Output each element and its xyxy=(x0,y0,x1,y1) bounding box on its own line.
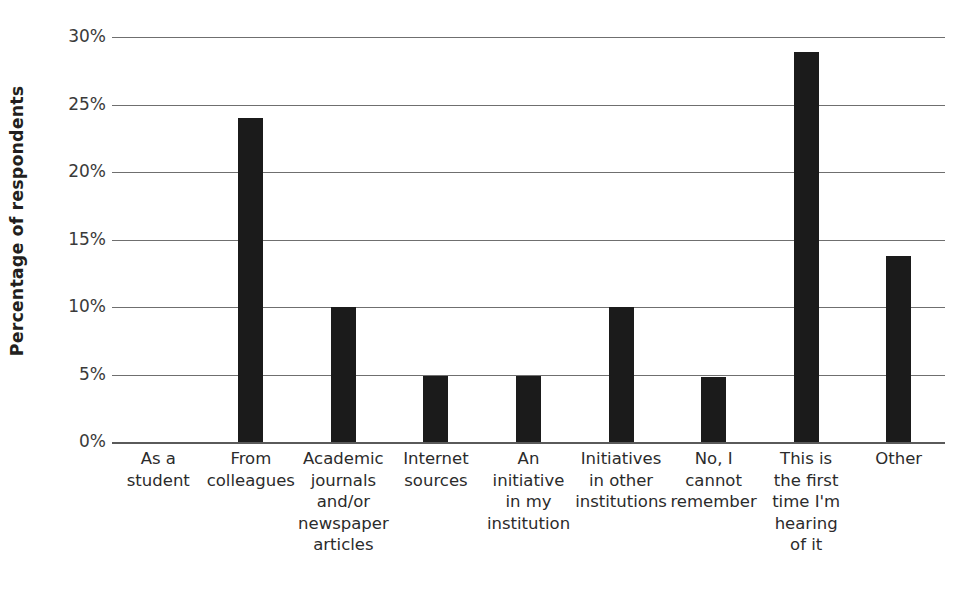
x-axis-label-line: institution xyxy=(482,513,575,535)
x-axis-label-line: No, I xyxy=(667,448,760,470)
x-axis-label-line: newspaper xyxy=(297,513,390,535)
x-axis-label-line: sources xyxy=(390,470,483,492)
y-axis-tick-label: 5% xyxy=(42,366,106,383)
y-axis-tick-label: 10% xyxy=(42,298,106,315)
x-axis-label-line: Academic xyxy=(297,448,390,470)
x-axis-tick-label: Other xyxy=(852,448,945,470)
x-axis-tick-labels: As astudentFromcolleaguesAcademicjournal… xyxy=(112,448,945,588)
x-axis-label-line: From xyxy=(205,448,298,470)
y-axis-tick-labels: 30%25%20%15%10%5%0% xyxy=(40,0,106,594)
x-axis-tick-label: As astudent xyxy=(112,448,205,491)
x-axis-label-line: cannot xyxy=(667,470,760,492)
x-axis-label-line: As a xyxy=(112,448,205,470)
x-axis-label-line: This is xyxy=(760,448,853,470)
x-axis-tick-label: Aninitiativein myinstitution xyxy=(482,448,575,534)
x-axis-tick-label: Initiativesin otherinstitutions xyxy=(575,448,668,513)
x-axis-label-line: colleagues xyxy=(205,470,298,492)
y-axis-tick-label: 30% xyxy=(42,28,106,45)
x-axis-label-line: Other xyxy=(852,448,945,470)
bar[interactable] xyxy=(886,256,911,442)
bar[interactable] xyxy=(238,118,263,442)
x-axis-label-line: journals xyxy=(297,470,390,492)
x-axis-tick-label: Academicjournalsand/ornewspaperarticles xyxy=(297,448,390,556)
x-axis-label-line: of it xyxy=(760,534,853,556)
x-axis-label-line: in other xyxy=(575,470,668,492)
bar[interactable] xyxy=(609,307,634,442)
bar[interactable] xyxy=(701,377,726,442)
x-axis-tick-label: No, Icannotremember xyxy=(667,448,760,513)
x-axis-label-line: articles xyxy=(297,534,390,556)
bar[interactable] xyxy=(423,376,448,442)
x-axis-label-line: and/or xyxy=(297,491,390,513)
x-axis-label-line: Internet xyxy=(390,448,483,470)
x-axis-label-line: An xyxy=(482,448,575,470)
bars-group xyxy=(112,37,945,442)
x-axis-label-line: institutions xyxy=(575,491,668,513)
axis-baseline xyxy=(112,442,945,444)
y-axis-tick-label: 20% xyxy=(42,163,106,180)
bar[interactable] xyxy=(331,307,356,442)
y-axis-tick-label: 0% xyxy=(42,433,106,450)
y-axis-title-text: Percentage of respondents xyxy=(7,86,27,356)
x-axis-label-line: hearing xyxy=(760,513,853,535)
x-axis-label-line: remember xyxy=(667,491,760,513)
y-axis-tick-label: 15% xyxy=(42,231,106,248)
x-axis-label-line: initiative xyxy=(482,470,575,492)
y-axis-title: Percentage of respondents xyxy=(0,0,34,442)
y-axis-tick-label: 25% xyxy=(42,96,106,113)
plot-area xyxy=(112,37,945,442)
bar-chart: Percentage of respondents 30%25%20%15%10… xyxy=(0,0,971,594)
bar[interactable] xyxy=(794,52,819,442)
x-axis-tick-label: Fromcolleagues xyxy=(205,448,298,491)
x-axis-label-line: Initiatives xyxy=(575,448,668,470)
x-axis-tick-label: This isthe firsttime I'mhearingof it xyxy=(760,448,853,556)
x-axis-tick-label: Internetsources xyxy=(390,448,483,491)
x-axis-label-line: student xyxy=(112,470,205,492)
x-axis-label-line: time I'm xyxy=(760,491,853,513)
x-axis-label-line: in my xyxy=(482,491,575,513)
bar[interactable] xyxy=(516,376,541,442)
x-axis-label-line: the first xyxy=(760,470,853,492)
